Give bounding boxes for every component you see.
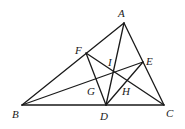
segment-fd [86, 53, 106, 105]
point-label-i: I [107, 56, 113, 68]
point-label-c: C [166, 107, 174, 119]
point-label-g: G [87, 85, 95, 97]
point-label-h: H [121, 85, 131, 97]
point-label-a: A [117, 7, 125, 19]
point-label-b: B [12, 108, 19, 120]
point-label-d: D [99, 110, 108, 122]
point-label-f: F [74, 44, 82, 56]
segment-ac [124, 23, 164, 105]
geometry-diagram: ABCDEFGHI [0, 0, 185, 129]
point-label-e: E [145, 55, 153, 67]
